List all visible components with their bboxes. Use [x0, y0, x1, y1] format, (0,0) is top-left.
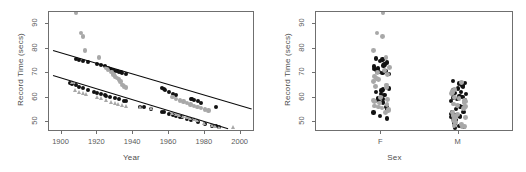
plot-data-layer-strip [316, 12, 512, 130]
x-tick-mark [168, 131, 169, 134]
data-point [455, 103, 460, 108]
data-point-triangle [104, 98, 108, 102]
panel-scatter-year: 190019201940196019802000 5060708090 Year… [0, 0, 263, 172]
x-tick-label: 1900 [48, 137, 74, 146]
data-point [108, 95, 112, 99]
plot-data-layer-scatter [49, 12, 253, 130]
data-point [81, 34, 85, 38]
data-point [97, 55, 101, 59]
y-tick-mark [45, 72, 48, 73]
x-tick-label-category: M [445, 137, 471, 146]
y-tick-label: 70 [297, 64, 306, 80]
y-tick-label: 80 [297, 39, 306, 55]
x-tick-mark [96, 131, 97, 134]
y-axis-title-strip: Record Time (secs) [283, 20, 292, 120]
x-tick-label-category: F [367, 137, 393, 146]
data-point [384, 55, 389, 60]
data-point [74, 12, 78, 15]
y-tick-mark [45, 121, 48, 122]
y-tick-mark [45, 23, 48, 24]
data-point [451, 79, 455, 83]
x-tick-label: 2000 [227, 137, 253, 146]
data-point [124, 85, 128, 89]
y-tick-mark [312, 121, 315, 122]
data-point [385, 97, 390, 102]
y-tick-label: 60 [297, 88, 306, 104]
figure-container: 190019201940196019802000 5060708090 Year… [0, 0, 526, 172]
y-tick-mark [312, 72, 315, 73]
x-tick-mark [240, 131, 241, 134]
y-tick-mark [312, 97, 315, 98]
x-tick-label: 1980 [191, 137, 217, 146]
data-point [162, 110, 166, 114]
data-point [380, 34, 385, 39]
data-point [142, 105, 146, 109]
data-point [206, 108, 210, 112]
data-point [381, 12, 386, 15]
data-point [199, 101, 203, 105]
plot-area-strip [315, 11, 513, 131]
data-point [371, 110, 375, 114]
data-point-triangle [99, 96, 103, 100]
x-axis-title-strip: Sex [263, 153, 526, 162]
regression-line [52, 50, 251, 110]
x-tick-mark [458, 131, 459, 134]
data-point [463, 115, 468, 120]
data-point [457, 96, 462, 101]
data-point [384, 85, 389, 90]
data-point [374, 90, 378, 94]
y-tick-label: 70 [30, 64, 39, 80]
data-point [452, 95, 457, 100]
x-tick-label: 1920 [83, 137, 109, 146]
panel-strip-sex: FM 5060708090 Sex Record Time (secs) [263, 0, 526, 172]
y-tick-mark [45, 97, 48, 98]
x-tick-mark [61, 131, 62, 134]
y-tick-label: 90 [30, 15, 39, 31]
data-point [381, 63, 385, 67]
data-point [378, 114, 382, 118]
x-tick-mark [132, 131, 133, 134]
x-tick-mark [380, 131, 381, 134]
y-tick-mark [312, 23, 315, 24]
data-point [385, 72, 390, 77]
x-tick-label: 1940 [119, 137, 145, 146]
data-point [124, 99, 128, 103]
y-axis-title-scatter: Record Time (secs) [16, 20, 25, 120]
data-point-triangle [84, 92, 88, 96]
data-point [376, 77, 381, 82]
y-tick-label: 50 [297, 113, 306, 129]
x-tick-label: 1960 [155, 137, 181, 146]
data-point-triangle [124, 104, 128, 108]
data-point [375, 31, 380, 36]
data-point [371, 48, 376, 53]
y-tick-mark [45, 48, 48, 49]
x-axis-title-scatter: Year [0, 153, 263, 162]
data-point [461, 85, 465, 89]
y-tick-label: 50 [30, 113, 39, 129]
x-tick-mark [204, 131, 205, 134]
data-point [373, 84, 378, 89]
y-tick-label: 80 [30, 39, 39, 55]
data-point [387, 65, 392, 70]
y-tick-mark [312, 48, 315, 49]
data-point [83, 48, 87, 52]
data-point [117, 97, 121, 101]
data-point [378, 95, 383, 100]
data-point [214, 105, 218, 109]
data-point-triangle [231, 125, 235, 129]
data-point [385, 116, 389, 120]
data-point [383, 110, 388, 115]
data-point-triangle [138, 105, 142, 109]
y-tick-label: 60 [30, 88, 39, 104]
plot-area-scatter [48, 11, 254, 131]
y-tick-label: 90 [297, 15, 306, 31]
data-point-triangle [149, 106, 153, 110]
